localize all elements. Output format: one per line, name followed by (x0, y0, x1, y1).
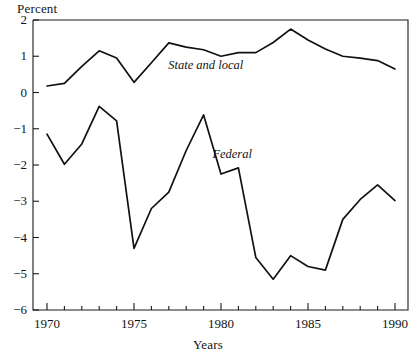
line-chart-figure: Percent Years 210−1−2−3−4−5−6 1970197519… (0, 0, 416, 357)
y-tick-label: 1 (1, 48, 27, 64)
series-label-state-and-local: State and local (168, 58, 243, 73)
x-axis-title: Years (0, 337, 416, 353)
y-tick-label: 0 (1, 85, 27, 101)
series-label-federal: Federal (212, 147, 252, 162)
y-tick-label: −4 (1, 230, 27, 246)
plot-area (0, 0, 416, 357)
y-tick-label: −3 (1, 193, 27, 209)
y-tick-label: −2 (1, 157, 27, 173)
y-tick-label: −5 (1, 266, 27, 282)
x-tick-label: 1985 (278, 316, 338, 332)
x-tick-label: 1990 (365, 316, 416, 332)
y-tick-label: −1 (1, 121, 27, 137)
x-tick-label: 1970 (17, 316, 77, 332)
y-tick-label: 2 (1, 12, 27, 28)
x-tick-label: 1975 (104, 316, 164, 332)
x-tick-label: 1980 (191, 316, 251, 332)
